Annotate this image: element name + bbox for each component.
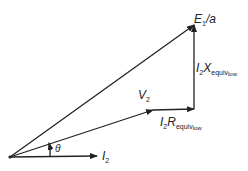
i2r-label: I2Requivlow [160, 116, 202, 131]
theta-arc [49, 143, 50, 157]
i2-label: I2 [102, 150, 109, 164]
i2-vector [10, 156, 97, 157]
i2x-label: I2Xequivlow [196, 62, 237, 77]
e1a-vector [10, 25, 194, 157]
i2r-vector [153, 109, 194, 110]
v2-label: V2 [138, 89, 150, 103]
e1a-label: E1/a [194, 13, 216, 27]
v2-vector [10, 110, 153, 157]
theta-label: θ [55, 144, 60, 154]
